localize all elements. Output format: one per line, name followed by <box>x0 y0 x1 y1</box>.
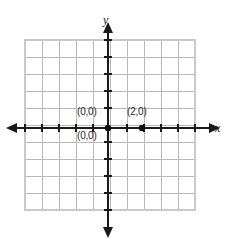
plotted-point-two-zero <box>139 125 145 131</box>
plotted-point-origin <box>105 125 111 131</box>
x-axis-left-arrow-icon <box>6 123 17 133</box>
x-axis-label: x <box>215 121 220 136</box>
y-axis-down-arrow-icon <box>103 227 113 238</box>
coordinate-plane-canvas <box>0 0 231 245</box>
y-axis-label: y <box>103 13 108 28</box>
point-label-origin-above: (0,0) <box>77 106 97 117</box>
grid-lines <box>25 40 195 210</box>
point-label-two-zero: (2,0) <box>127 106 147 117</box>
coordinate-plane-figure: (0,0) (0,0) (2,0) y x <box>0 0 231 245</box>
point-label-origin-below: (0,0) <box>77 130 97 141</box>
